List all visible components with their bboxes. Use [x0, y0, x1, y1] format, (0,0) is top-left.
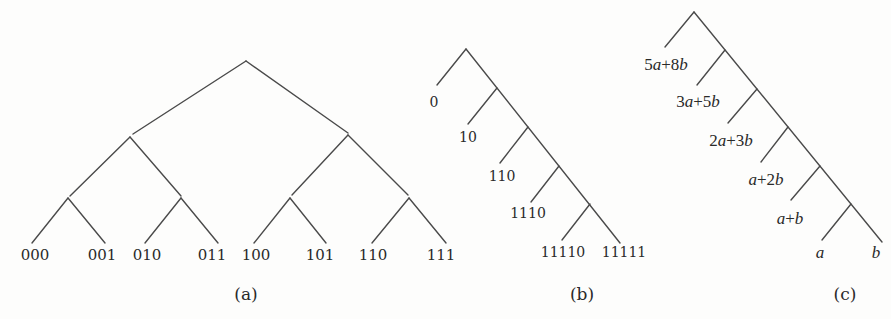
leaf-label-11110: 11110: [541, 244, 586, 260]
panel-a-caption: (a): [234, 284, 257, 304]
panel-c-edges: [665, 12, 882, 242]
panel-b-tree: 0 10 110 1110 11110 11111 (b): [430, 49, 647, 304]
panel-b-caption: (b): [570, 284, 594, 304]
leaf-label-1110: 1110: [510, 205, 546, 221]
panel-c-caption: (c): [834, 284, 857, 304]
leaf-label-101: 101: [306, 246, 335, 264]
panel-c-tree: 5a+8b 3a+5b 2a+3b a+2b a+b a b (c): [644, 12, 882, 304]
leaf-label-110: 110: [359, 246, 388, 264]
leaf-label-2a-3b: 2a+3b: [709, 131, 753, 150]
leaf-label-3a-5b: 3a+5b: [676, 92, 720, 111]
panel-a-tree: 000 001 010 011 100 101 110 111 (a): [21, 61, 456, 304]
leaf-label-100: 100: [242, 246, 271, 264]
leaf-label-11111: 11111: [602, 244, 647, 260]
leaf-label-10: 10: [459, 129, 477, 145]
panel-a-edges: [32, 61, 446, 243]
tree-figure: 000 001 010 011 100 101 110 111 (a) 0 10…: [0, 0, 891, 319]
leaf-label-5a-8b: 5a+8b: [644, 55, 688, 74]
leaf-label-110: 110: [489, 168, 516, 184]
leaf-label-a-2b: a+2b: [748, 170, 783, 189]
leaf-label-a-b: a+b: [777, 209, 804, 228]
leaf-label-b: b: [872, 243, 881, 262]
leaf-label-a: a: [816, 243, 825, 262]
leaf-label-111: 111: [427, 246, 456, 264]
leaf-label-001: 001: [88, 246, 117, 264]
leaf-label-011: 011: [198, 246, 227, 264]
leaf-label-000: 000: [21, 246, 50, 264]
leaf-label-0: 0: [430, 94, 439, 110]
leaf-label-010: 010: [133, 246, 162, 264]
